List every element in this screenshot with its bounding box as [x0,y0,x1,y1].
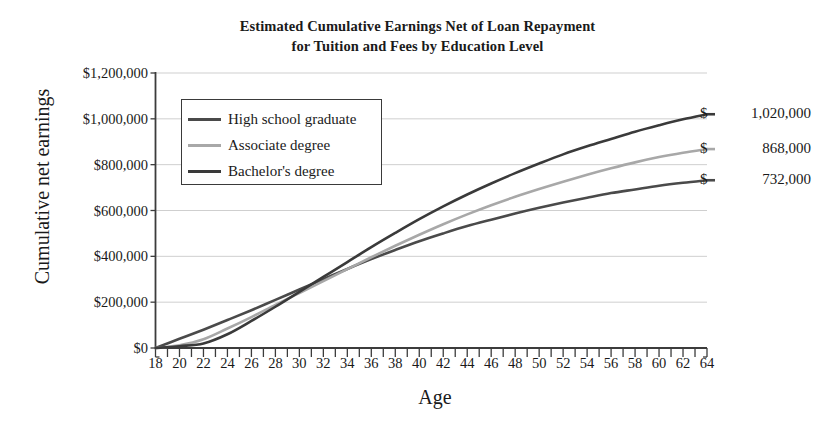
y-axis-tick-label: $800,000 [48,158,148,172]
x-axis-tick-label: 36 [358,355,384,371]
y-axis-tick-label: $400,000 [48,249,148,263]
x-axis-tick-label: 50 [526,355,552,371]
legend-color-swatch [188,144,221,147]
series-end-value-labels: $732,000$868,000$1,020,000 [700,0,835,434]
end-value-amount: 732,000 [716,172,811,187]
x-axis-tick-label: 42 [430,355,456,371]
x-axis-tick-label: 34 [334,355,360,371]
legend-item-bachelor-s-degree[interactable]: Bachelor's degree [188,158,334,184]
legend-item-associate-degree[interactable]: Associate degree [188,132,330,158]
end-value-amount: 1,020,000 [716,106,811,121]
currency-symbol: $ [700,172,716,187]
y-axis-tick-label: $0 [48,341,148,355]
legend-color-swatch [188,170,221,173]
x-axis-tick-label: 32 [310,355,336,371]
y-axis-tick-label: $200,000 [48,295,148,309]
legend-item-label: Associate degree [228,137,330,153]
legend-item-label: High school graduate [228,111,356,127]
x-axis-tick-label: 48 [502,355,528,371]
currency-symbol: $ [700,141,716,156]
legend-color-swatch [188,118,221,121]
x-axis-tick-label: 62 [670,355,696,371]
legend-item-label: Bachelor's degree [228,163,334,179]
series-end-value-label: $1,020,000 [700,106,828,121]
x-axis-tick-label: 38 [382,355,408,371]
series-end-value-label: $732,000 [700,172,828,187]
end-value-amount: 868,000 [716,141,811,156]
x-axis-tick-label: 18 [143,355,169,371]
x-axis-tick-label: 20 [166,355,192,371]
x-axis-tick-label: 56 [598,355,624,371]
x-axis-tick-label: 24 [214,355,240,371]
series-end-value-label: $868,000 [700,141,828,156]
y-axis-tick-label: $600,000 [48,204,148,218]
x-axis-tick-label: 52 [550,355,576,371]
currency-symbol: $ [700,106,716,121]
legend-item-high-school-graduate[interactable]: High school graduate [188,106,356,132]
x-axis-tick-label: 28 [262,355,288,371]
x-axis-tick-label: 60 [646,355,672,371]
chart-figure: Estimated Cumulative Earnings Net of Loa… [0,0,835,434]
x-axis-tick-label: 40 [406,355,432,371]
x-axis-tick-label: 22 [190,355,216,371]
chart-legend: High school graduateAssociate degreeBach… [181,99,382,185]
x-axis-tick-label: 26 [238,355,264,371]
x-axis-tick-label: 30 [286,355,312,371]
x-axis-tick-label: 44 [454,355,480,371]
y-axis-tick-label: $1,200,000 [48,66,148,80]
y-axis-tick-label: $1,000,000 [48,112,148,126]
x-axis-tick-label: 58 [622,355,648,371]
x-axis-tick-label: 46 [478,355,504,371]
x-axis-tick-label: 54 [574,355,600,371]
